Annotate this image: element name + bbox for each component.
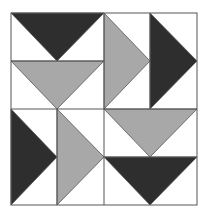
quilt-block	[0, 0, 209, 217]
quilt-block-canvas	[0, 0, 209, 217]
